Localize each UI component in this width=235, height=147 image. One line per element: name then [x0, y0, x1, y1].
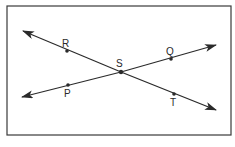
line-pq-left-ray	[22, 72, 121, 97]
point-r	[65, 49, 69, 53]
point-p	[66, 83, 70, 87]
point-s	[119, 70, 123, 74]
line-rt-left-ray	[23, 31, 121, 72]
label-s: S	[116, 58, 123, 69]
label-p: P	[64, 88, 71, 99]
line-rt-right-ray	[121, 72, 216, 110]
label-r: R	[62, 38, 69, 49]
label-t: T	[170, 97, 176, 108]
point-q	[169, 57, 173, 61]
geometry-diagram: R Q S P T	[0, 0, 235, 147]
point-t	[172, 92, 176, 96]
diagram-frame	[7, 6, 231, 135]
label-q: Q	[166, 46, 174, 57]
